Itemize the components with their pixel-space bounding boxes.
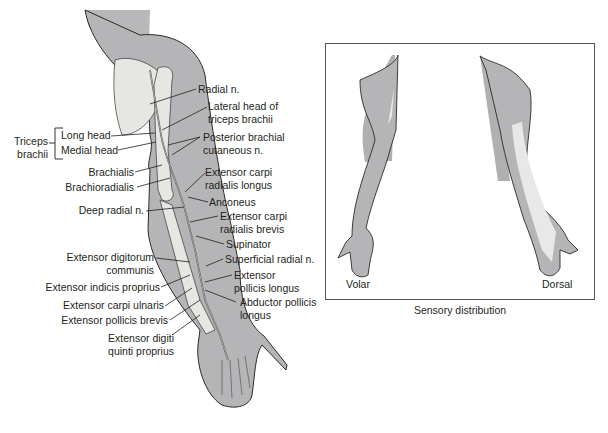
label-line: Extensor digiti — [108, 332, 174, 345]
label-triceps: Triceps — [14, 135, 48, 148]
caption-sensory-distribution: Sensory distribution — [325, 304, 595, 316]
label-deep-radial-n: Deep radial n. — [79, 204, 144, 217]
label-ext-carpi-ulnaris: Extensor carpi ulnaris — [63, 299, 164, 312]
label-dorsal: Dorsal — [542, 278, 572, 291]
label-line: Extensor — [234, 269, 299, 282]
label-supinator: Supinator — [226, 238, 271, 251]
label-line: Extensor carpi — [220, 210, 287, 223]
label-brachii: brachii — [14, 148, 48, 161]
label-posterior-brachial-cutaneous-n: Posterior brachial cutaneous n. — [203, 131, 285, 157]
label-lateral-head-triceps: Lateral head of triceps brachii — [208, 100, 278, 126]
label-line: Extensor carpi — [205, 166, 272, 179]
label-ext-pollicis-longus: Extensor pollicis longus — [234, 269, 299, 295]
label-line: Posterior brachial — [203, 131, 285, 144]
label-radial-n: Radial n. — [198, 83, 239, 96]
label-line: Extensor digitorum — [66, 251, 154, 264]
sensory-distribution-panel — [325, 43, 595, 300]
label-medial-head: Medial head — [61, 144, 118, 157]
label-superficial-radial-n: Superficial radial n. — [225, 253, 314, 266]
label-anconeus: Anconeus — [209, 196, 256, 209]
label-ext-carpi-radialis-brevis: Extensor carpi radialis brevis — [220, 210, 287, 236]
label-line: longus — [240, 309, 316, 322]
label-brachialis: Brachialis — [88, 166, 134, 179]
label-ext-indicis-proprius: Extensor indicis proprius — [46, 281, 160, 294]
label-ext-digitorum-communis: Extensor digitorum communis — [66, 251, 154, 277]
label-line: Abductor pollicis — [240, 296, 316, 309]
label-abductor-pollicis-longus: Abductor pollicis longus — [240, 296, 316, 322]
label-line: cutaneous n. — [203, 144, 285, 157]
label-line: radialis brevis — [220, 223, 287, 236]
label-triceps-brachii: Triceps brachii — [14, 135, 48, 161]
label-line: quinti proprius — [108, 345, 174, 358]
label-ext-carpi-radialis-longus: Extensor carpi radialis longus — [205, 166, 272, 192]
label-volar: Volar — [346, 278, 370, 291]
label-line: radialis longus — [205, 179, 272, 192]
label-long-head: Long head — [61, 129, 111, 142]
label-line: pollicis longus — [234, 282, 299, 295]
label-ext-digiti-quinti-proprius: Extensor digiti quinti proprius — [108, 332, 174, 358]
label-line: triceps brachii — [208, 113, 278, 126]
label-line: communis — [66, 264, 154, 277]
label-line: Lateral head of — [208, 100, 278, 113]
label-ext-pollicis-brevis: Extensor pollicis brevis — [61, 314, 168, 327]
label-brachioradialis: Brachioradialis — [65, 181, 134, 194]
